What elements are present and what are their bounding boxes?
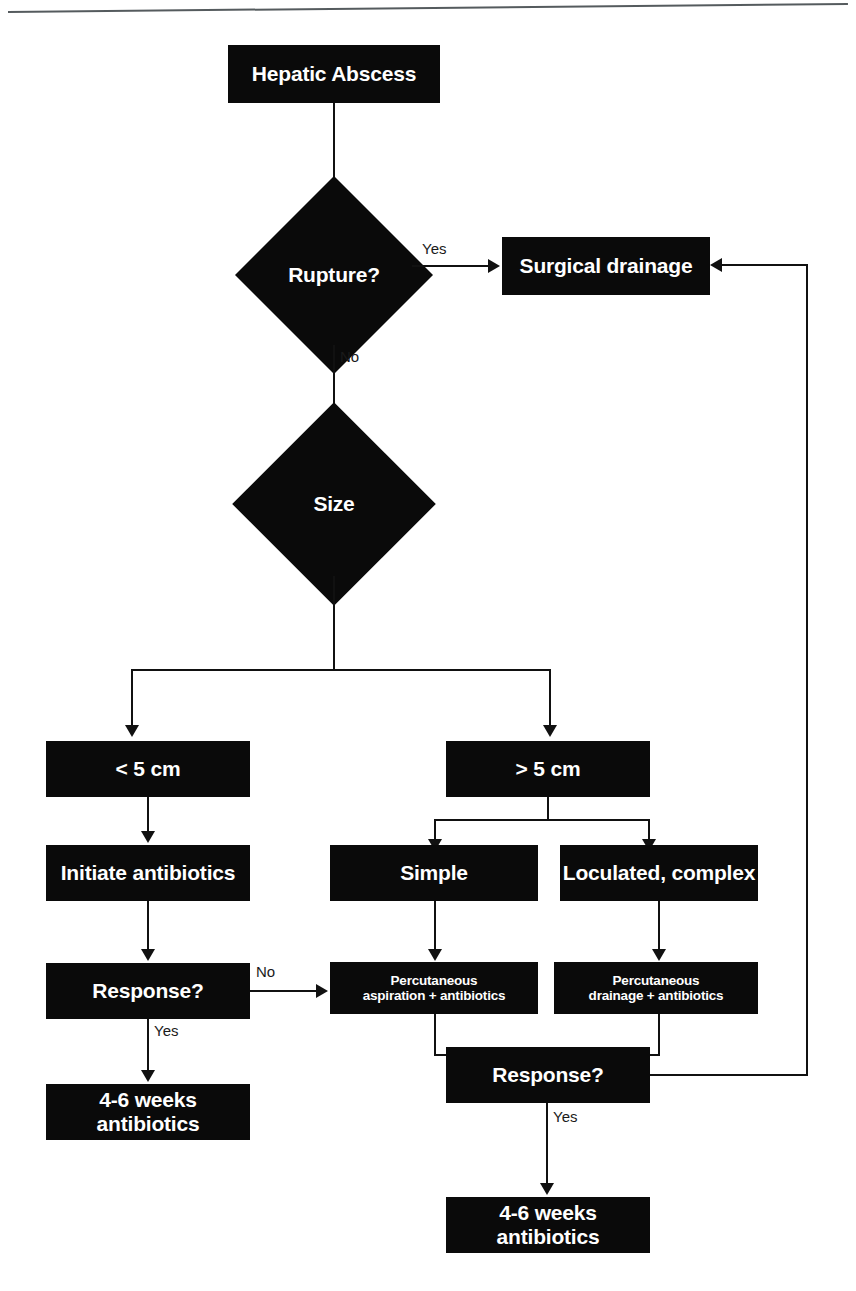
edge-gt5-to-loculated: [648, 819, 650, 841]
node-weeks-antibiotics-bottom-label: 4-6 weeks antibiotics: [446, 1201, 650, 1248]
edge-rupture-yes: [412, 265, 490, 267]
edge-feedback-to-surgical-h: [722, 264, 808, 266]
arrowhead-lt5-to-initiate: [141, 831, 155, 843]
edge-loculated-to-perc-drainage: [658, 901, 660, 951]
node-percutaneous-aspiration-line1: Percutaneous: [391, 973, 478, 988]
arrowhead-response-left-no: [316, 984, 328, 998]
edge-size-split-bar: [131, 669, 551, 671]
node-greater-than-5cm[interactable]: > 5 cm: [446, 741, 650, 797]
node-surgical-drainage-label: Surgical drainage: [520, 254, 693, 278]
edge-size-to-lt5: [131, 669, 133, 727]
arrowhead-simple-to-perc-aspiration: [428, 949, 442, 961]
node-loculated-complex[interactable]: Loculated, complex: [560, 845, 758, 901]
node-response-left[interactable]: Response?: [46, 963, 250, 1019]
edge-simple-to-perc-aspiration: [434, 901, 436, 951]
edge-gt5-stem: [547, 797, 549, 821]
node-percutaneous-drainage[interactable]: Percutaneous drainage + antibiotics: [554, 962, 758, 1014]
edge-gt5-split-bar: [434, 819, 650, 821]
node-size-label: Size: [313, 492, 354, 516]
edge-size-stem: [333, 576, 335, 671]
node-rupture-decision[interactable]: Rupture?: [264, 205, 404, 345]
edge-response-bottom-feedback-v: [806, 264, 808, 1076]
flowchart-canvas: Hepatic Abscess Rupture? Yes Surgical dr…: [0, 0, 856, 1291]
node-response-bottom-label: Response?: [492, 1063, 603, 1087]
edge-label-response-left-yes: Yes: [154, 1022, 178, 1039]
edge-size-to-gt5: [549, 669, 551, 727]
edge-label-rupture-yes: Yes: [422, 240, 446, 257]
edge-response-bottom-feedback-h: [650, 1074, 808, 1076]
edge-gt5-to-simple: [434, 819, 436, 841]
node-percutaneous-drainage-line2: drainage + antibiotics: [589, 988, 724, 1003]
node-simple[interactable]: Simple: [330, 845, 538, 901]
page-top-rule: [8, 3, 848, 13]
node-percutaneous-aspiration-line2: aspiration + antibiotics: [363, 988, 506, 1003]
arrowhead-rupture-yes: [488, 259, 500, 273]
arrowhead-size-to-lt5: [125, 725, 139, 737]
node-percutaneous-drainage-line1: Percutaneous: [613, 973, 700, 988]
edge-perc-drainage-drop: [658, 1014, 660, 1056]
node-hepatic-abscess-label: Hepatic Abscess: [252, 62, 416, 86]
node-surgical-drainage[interactable]: Surgical drainage: [502, 237, 710, 295]
node-weeks-antibiotics-left-label: 4-6 weeks antibiotics: [46, 1088, 250, 1135]
node-size-decision[interactable]: Size: [262, 432, 406, 576]
node-greater-than-5cm-label: > 5 cm: [516, 757, 581, 781]
edge-response-left-yes: [147, 1019, 149, 1072]
node-less-than-5cm-label: < 5 cm: [116, 757, 181, 781]
node-weeks-antibiotics-left[interactable]: 4-6 weeks antibiotics: [46, 1084, 250, 1140]
arrowhead-loculated-to-perc-drainage: [652, 949, 666, 961]
arrowhead-size-to-gt5: [543, 725, 557, 737]
node-response-left-label: Response?: [92, 979, 203, 1003]
edge-response-bottom-yes: [546, 1103, 548, 1185]
node-hepatic-abscess[interactable]: Hepatic Abscess: [228, 45, 440, 103]
edge-response-left-no: [250, 990, 318, 992]
arrowhead-response-left-yes: [141, 1070, 155, 1082]
node-percutaneous-aspiration[interactable]: Percutaneous aspiration + antibiotics: [330, 962, 538, 1014]
node-simple-label: Simple: [400, 861, 468, 885]
edge-label-rupture-no: No: [340, 348, 359, 365]
arrowhead-feedback-to-surgical: [710, 258, 722, 272]
edge-perc-aspiration-drop: [434, 1014, 436, 1056]
node-initiate-antibiotics-label: Initiate antibiotics: [61, 861, 236, 885]
edge-label-response-bottom-yes: Yes: [553, 1108, 577, 1125]
node-less-than-5cm[interactable]: < 5 cm: [46, 741, 250, 797]
edge-lt5-to-initiate: [147, 797, 149, 833]
node-response-bottom[interactable]: Response?: [446, 1047, 650, 1103]
edge-initiate-to-response-left: [147, 901, 149, 951]
node-initiate-antibiotics[interactable]: Initiate antibiotics: [46, 845, 250, 901]
arrowhead-response-bottom-yes: [540, 1183, 554, 1195]
arrowhead-initiate-to-response-left: [141, 949, 155, 961]
node-weeks-antibiotics-bottom[interactable]: 4-6 weeks antibiotics: [446, 1197, 650, 1253]
node-loculated-complex-label: Loculated, complex: [563, 861, 755, 885]
node-rupture-label: Rupture?: [288, 263, 380, 287]
edge-label-response-left-no: No: [256, 963, 275, 980]
